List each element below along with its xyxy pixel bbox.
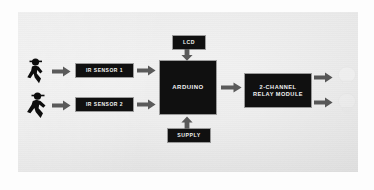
arrow-down-icon [181, 49, 193, 61]
node-arduino: ARDUINO [160, 61, 216, 114]
node-supply-label: SUPPLY [177, 132, 200, 139]
node-arduino-label: ARDUINO [172, 84, 204, 92]
arrow-right-icon [52, 100, 71, 111]
node-ir-sensor-2-label: IR SENSOR 2 [86, 101, 123, 107]
arrow-up-icon [181, 116, 193, 129]
walking-person-icon [24, 92, 50, 119]
node-relay-module: 2-CHANNEL RELAY MODULE [245, 74, 311, 107]
light-bulb-icon [334, 64, 360, 90]
arrow-right-icon [137, 65, 156, 76]
arrow-right-icon [314, 97, 333, 108]
node-lcd-label: LCD [183, 39, 195, 46]
light-bulb-icon [334, 90, 360, 118]
node-lcd: LCD [173, 36, 205, 49]
arrow-right-icon [52, 66, 71, 77]
arrow-right-icon [314, 72, 333, 83]
arrow-right-icon [137, 99, 156, 110]
node-relay-module-label-line1: 2-CHANNEL [253, 84, 303, 91]
node-ir-sensor-2: IR SENSOR 2 [76, 98, 133, 111]
walking-person-icon [24, 58, 48, 84]
node-ir-sensor-1-label: IR SENSOR 1 [86, 67, 123, 73]
node-relay-module-label-line2: RELAY MODULE [253, 91, 303, 98]
node-ir-sensor-1: IR SENSOR 1 [76, 64, 133, 77]
block-diagram: IR SENSOR 1 IR SENSOR 2 ARDUINO LCD SUPP… [0, 0, 374, 190]
arrow-right-icon [221, 82, 242, 93]
node-supply: SUPPLY [168, 129, 210, 142]
